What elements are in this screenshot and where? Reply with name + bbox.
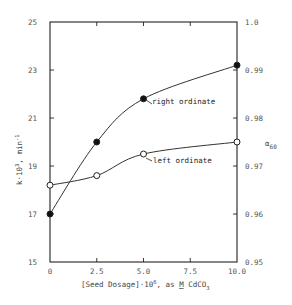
y-right-tick-label: 0.95 <box>245 258 263 267</box>
fit-curves <box>50 65 237 214</box>
annotation-left-ordinate: left ordinate <box>153 156 212 165</box>
y-left-tick-label: 23 <box>28 66 37 75</box>
x-tick-label: 7.5 <box>183 267 197 276</box>
axis-ticks: 02.55.07.510.01517192123250.950.960.970.… <box>28 18 264 276</box>
y-left-tick-label: 17 <box>28 210 37 219</box>
x-tick-label: 0 <box>48 267 53 276</box>
x-tick-label: 2.5 <box>90 267 104 276</box>
open-circle-marker <box>234 139 240 145</box>
y-left-tick-label: 19 <box>28 162 37 171</box>
y-right-tick-label: 0.97 <box>245 162 263 171</box>
filled-circle-marker <box>94 139 100 145</box>
y-axis-left-title: k·103, min-1 <box>14 134 24 185</box>
plot-frame <box>50 22 237 262</box>
open-circle-marker <box>141 151 147 157</box>
annotation-right-ordinate: right ordinate <box>152 97 216 106</box>
y-right-tick-label: 0.98 <box>245 114 264 123</box>
y-right-tick-label: 1.0 <box>245 18 259 27</box>
open-circle-marker <box>94 173 100 179</box>
right-ordinate-curve <box>50 65 237 214</box>
x-tick-label: 5.0 <box>137 267 151 276</box>
data-points <box>47 62 240 217</box>
filled-circle-marker <box>47 211 53 217</box>
open-circle-marker <box>47 182 53 188</box>
y-left-tick-label: 21 <box>28 114 37 123</box>
chart: 02.55.07.510.01517192123250.950.960.970.… <box>0 0 292 305</box>
filled-circle-marker <box>234 62 240 68</box>
annot-left-leader <box>146 158 152 161</box>
x-axis-title: [Seed Dosage]·106, as M CdCO3 <box>81 279 210 291</box>
filled-circle-marker <box>141 96 147 102</box>
y-left-tick-label: 25 <box>28 18 37 27</box>
y-axis-right-title: α60 <box>265 139 277 150</box>
x-tick-label: 10.0 <box>228 267 247 276</box>
y-right-tick-label: 0.96 <box>245 210 264 219</box>
y-left-tick-label: 15 <box>28 258 37 267</box>
y-right-tick-label: 0.99 <box>245 66 263 75</box>
plot-border <box>50 22 237 262</box>
